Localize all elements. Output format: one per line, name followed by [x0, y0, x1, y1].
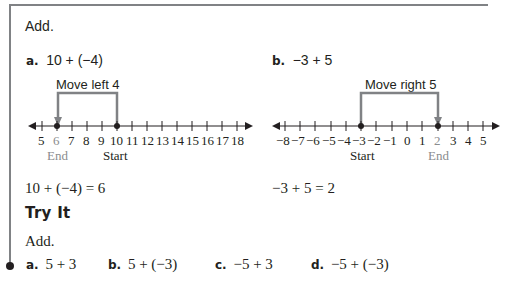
- tick-label: −7: [291, 133, 305, 149]
- end-label-a: End: [47, 148, 68, 164]
- example-a-expression: 10 + (−4): [46, 52, 103, 68]
- item-letter: d.: [311, 258, 324, 272]
- tick-label: −8: [276, 133, 290, 149]
- try-it-item-a: a. 5 + 3: [26, 256, 76, 273]
- try-it-item-c: c. −5 + 3: [215, 256, 273, 273]
- tick-label: −5: [322, 133, 336, 149]
- tick-label: 1: [419, 133, 426, 149]
- tick-label: −1: [383, 133, 397, 149]
- tick-label: 12: [141, 133, 154, 149]
- tick-label: 10: [110, 133, 123, 149]
- tick-label: 5: [38, 133, 45, 149]
- example-b-expression: −3 + 5: [293, 52, 333, 68]
- tick-label: 9: [98, 133, 105, 149]
- start-label-b: Start: [350, 148, 375, 164]
- tick-label: 14: [171, 133, 184, 149]
- item-letter: b.: [108, 258, 121, 272]
- frame-top-border: [10, 4, 228, 6]
- item-letter: a.: [26, 258, 39, 272]
- example-b-result: −3 + 5 = 2: [272, 180, 335, 197]
- tick-label: −6: [306, 133, 320, 149]
- tick-label: −4: [337, 133, 351, 149]
- item-expression: −5 + 3: [233, 256, 272, 272]
- try-it-heading: Try It: [25, 204, 71, 222]
- example-b-letter: b.: [272, 54, 285, 68]
- frame-end-dot: [6, 262, 14, 270]
- tick-label: 4: [465, 133, 472, 149]
- tick-label: −3: [352, 133, 366, 149]
- try-it-item-d: d. −5 + (−3): [311, 256, 389, 273]
- tick-label: 13: [156, 133, 169, 149]
- tick-label: 16: [201, 133, 214, 149]
- tick-label: 5: [480, 133, 487, 149]
- tick-label: 17: [216, 133, 229, 149]
- end-label-b: End: [428, 148, 449, 164]
- start-label-a: Start: [103, 148, 128, 164]
- frame-top-border-right: [228, 4, 488, 6]
- tick-label: 6: [53, 133, 60, 149]
- example-a-letter: a.: [26, 54, 39, 68]
- tick-label: 15: [186, 133, 199, 149]
- tick-label: 11: [126, 133, 139, 149]
- tick-label: 7: [68, 133, 75, 149]
- item-expression: 5 + 3: [45, 256, 76, 272]
- try-it-instruction: Add.: [25, 233, 55, 250]
- tick-label: 8: [83, 133, 90, 149]
- try-it-item-b: b. 5 + (−3): [108, 256, 177, 273]
- tick-label: 3: [450, 133, 457, 149]
- tick-label: 0: [404, 133, 411, 149]
- instruction-add: Add.: [25, 18, 54, 34]
- item-expression: 5 + (−3): [128, 256, 177, 272]
- example-a-result: 10 + (−4) = 6: [25, 180, 105, 197]
- tick-label: −2: [367, 133, 381, 149]
- tick-label: 2: [434, 133, 441, 149]
- example-a-heading: a. 10 + (−4): [26, 52, 103, 69]
- item-expression: −5 + (−3): [331, 256, 389, 272]
- item-letter: c.: [215, 258, 227, 272]
- tick-label: 18: [231, 133, 244, 149]
- example-b-heading: b. −3 + 5: [272, 52, 332, 69]
